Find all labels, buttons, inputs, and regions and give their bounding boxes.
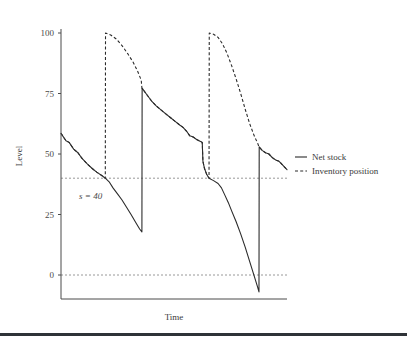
- legend-label-inventory-position: Inventory position: [312, 166, 379, 176]
- inventory-level-chart: 0255075100 Level Time s = 40 Net stockIn…: [0, 0, 407, 344]
- axes-group: [61, 29, 287, 299]
- series-inventory-position: [61, 33, 287, 178]
- y-tick-label: 50: [45, 149, 55, 159]
- y-tick-label: 25: [45, 210, 55, 220]
- legend-label-net-stock: Net stock: [312, 152, 347, 162]
- footer-divider: [0, 333, 407, 336]
- y-tick-label: 100: [41, 28, 55, 38]
- annotation-reorder-point: s = 40: [79, 191, 103, 201]
- y-tick-label: 75: [45, 89, 55, 99]
- x-axis-title: Time: [165, 312, 184, 322]
- figure-container: 0255075100 Level Time s = 40 Net stockIn…: [0, 0, 407, 344]
- y-tick-label: 0: [50, 270, 55, 280]
- annotations-group: s = 40: [79, 191, 103, 201]
- series-net-stock: [61, 88, 287, 292]
- chart-legend: Net stockInventory position: [295, 152, 379, 176]
- y-axis-title: Level: [14, 145, 24, 166]
- series-group: [61, 33, 287, 292]
- y-tick-labels-group: 0255075100: [41, 28, 62, 280]
